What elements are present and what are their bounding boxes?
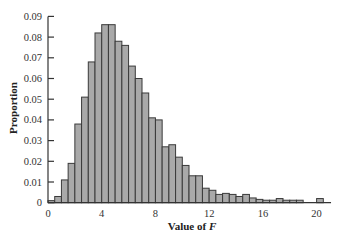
histogram-bar	[102, 25, 109, 203]
x-axis: 048121620	[45, 203, 331, 219]
histogram-bar	[176, 157, 183, 203]
y-tick-label: 0.08	[24, 32, 42, 43]
histogram-bar	[108, 25, 115, 203]
histogram-bar	[55, 196, 62, 202]
y-axis-title: Proportion	[7, 82, 19, 134]
histogram-bar	[135, 79, 142, 203]
histogram-bar	[75, 124, 82, 203]
histogram-bar	[243, 194, 250, 202]
x-tick-label: 20	[311, 208, 322, 219]
histogram-bar	[249, 198, 256, 203]
histogram-bar	[196, 176, 203, 203]
histogram-bar	[162, 147, 169, 203]
histogram-bar	[209, 190, 216, 202]
x-axis-title-variable: F	[208, 220, 217, 232]
y-tick-label: 0.04	[24, 114, 43, 125]
x-tick-label: 4	[99, 208, 105, 219]
histogram-bar	[88, 62, 95, 203]
histogram-bar	[276, 199, 283, 203]
y-tick-label: 0.02	[24, 156, 42, 167]
y-tick-label: 0.01	[24, 177, 42, 188]
x-tick-label: 0	[45, 208, 50, 219]
histogram-bar	[68, 163, 75, 202]
y-tick-label: 0.07	[24, 52, 42, 63]
histogram-bar	[182, 165, 189, 202]
histogram-bar	[236, 196, 243, 202]
histogram-bar	[95, 33, 102, 203]
x-tick-label: 8	[153, 208, 158, 219]
histogram-bar	[202, 188, 209, 202]
histogram-bar	[122, 45, 129, 202]
histogram-chart: 00.010.020.030.040.050.060.070.080.09 04…	[0, 0, 341, 244]
histogram-bar	[61, 180, 68, 203]
x-tick-label: 16	[258, 208, 269, 219]
y-tick-label: 0.09	[24, 11, 42, 22]
histogram-bar	[82, 97, 89, 203]
y-tick-label: 0.05	[24, 94, 42, 105]
histogram-bar	[223, 193, 230, 202]
histogram-bar	[169, 145, 176, 203]
histogram-bar	[142, 93, 149, 203]
histogram-bar	[149, 118, 156, 203]
histogram-bar	[189, 176, 196, 203]
histogram-bar	[216, 194, 223, 202]
y-axis: 00.010.020.030.040.050.060.070.080.09	[24, 11, 54, 208]
histogram-bar	[129, 66, 136, 203]
x-tick-label: 12	[204, 208, 215, 219]
histogram-bar	[115, 41, 122, 202]
y-tick-label: 0	[37, 197, 42, 208]
histogram-bars	[48, 25, 323, 203]
histogram-bar	[317, 199, 324, 203]
histogram-bar	[155, 120, 162, 203]
y-tick-label: 0.06	[24, 73, 42, 84]
histogram-bar	[229, 194, 236, 202]
x-axis-title-text: Value of	[168, 220, 209, 232]
y-tick-label: 0.03	[24, 135, 42, 146]
x-axis-title: Value of F	[168, 220, 217, 232]
